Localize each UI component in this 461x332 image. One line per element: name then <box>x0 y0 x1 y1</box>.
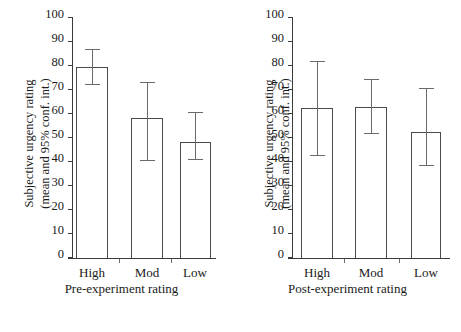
x-category-label-mod: Mod <box>135 265 160 281</box>
x-category-label-high: High <box>79 265 105 281</box>
y-tick-0: 0 <box>68 257 73 258</box>
plot-area-post: 100 90 80 70 60 50 40 30 20 10 0 <box>293 18 445 258</box>
errorbar-cap-lower <box>85 84 100 85</box>
errorbar-cap-lower <box>419 165 434 166</box>
x-axis-title-post: Post-experiment rating <box>232 281 461 297</box>
errorbar-cap-lower <box>188 159 203 160</box>
x-category-label-high: High <box>304 265 330 281</box>
plot-area-pre: 100 90 80 70 60 50 40 30 20 10 0 <box>73 18 213 258</box>
errorbar-cap-upper <box>364 79 379 80</box>
errorbar-pre-high <box>92 49 93 85</box>
y-tick-80: 80 <box>68 65 73 66</box>
x-tick-2 <box>399 259 400 263</box>
y-tick-70: 70 <box>288 89 293 90</box>
x-category-label-low: Low <box>183 265 207 281</box>
errorbar-cap-lower <box>364 133 379 134</box>
errorbar-pre-low <box>195 112 196 160</box>
errorbar-cap-lower <box>140 160 155 161</box>
x-tick-1 <box>119 259 120 263</box>
x-tick-1 <box>344 259 345 263</box>
x-axis-line <box>288 258 450 259</box>
y-tick-90: 90 <box>288 41 293 42</box>
errorbar-cap-upper <box>188 112 203 113</box>
errorbar-cap-upper <box>419 88 434 89</box>
x-axis-title-pre: Pre-experiment rating <box>6 281 237 297</box>
y-tick-80: 80 <box>288 65 293 66</box>
y-tick-90: 90 <box>68 41 73 42</box>
y-tick-60: 60 <box>288 113 293 114</box>
errorbar-post-low <box>426 88 427 166</box>
y-tick-20: 20 <box>288 209 293 210</box>
y-tick-10: 10 <box>288 233 293 234</box>
y-tick-60: 60 <box>68 113 73 114</box>
y-tick-30: 30 <box>288 185 293 186</box>
y-tick-50: 50 <box>68 137 73 138</box>
y-tick-40: 40 <box>288 161 293 162</box>
figure-bar-chart-pair: Subjective urgency rating (mean and 95% … <box>0 0 461 332</box>
panel-post-experiment: Subjective urgency rating (mean and 95% … <box>230 0 461 332</box>
errorbar-cap-lower <box>310 155 325 156</box>
y-tick-50: 50 <box>288 137 293 138</box>
y-tick-0: 0 <box>288 257 293 258</box>
x-category-label-low: Low <box>414 265 438 281</box>
y-tick-100: 100 <box>68 17 73 18</box>
x-axis-line <box>68 258 216 259</box>
errorbar-cap-upper <box>310 61 325 62</box>
x-category-label-mod: Mod <box>359 265 384 281</box>
y-tick-30: 30 <box>68 185 73 186</box>
errorbar-post-high <box>317 61 318 156</box>
y-axis-line <box>292 18 293 259</box>
panel-pre-experiment: Subjective urgency rating (mean and 95% … <box>0 0 231 332</box>
y-tick-10: 10 <box>68 233 73 234</box>
errorbar-cap-upper <box>85 49 100 50</box>
y-axis-line <box>72 18 73 259</box>
y-tick-100: 100 <box>288 17 293 18</box>
errorbar-post-mod <box>371 79 372 134</box>
errorbar-cap-upper <box>140 82 155 83</box>
x-tick-2 <box>171 259 172 263</box>
y-tick-70: 70 <box>68 89 73 90</box>
errorbar-pre-mod <box>147 82 148 161</box>
y-tick-20: 20 <box>68 209 73 210</box>
bar-pre-high <box>76 67 108 258</box>
y-tick-40: 40 <box>68 161 73 162</box>
